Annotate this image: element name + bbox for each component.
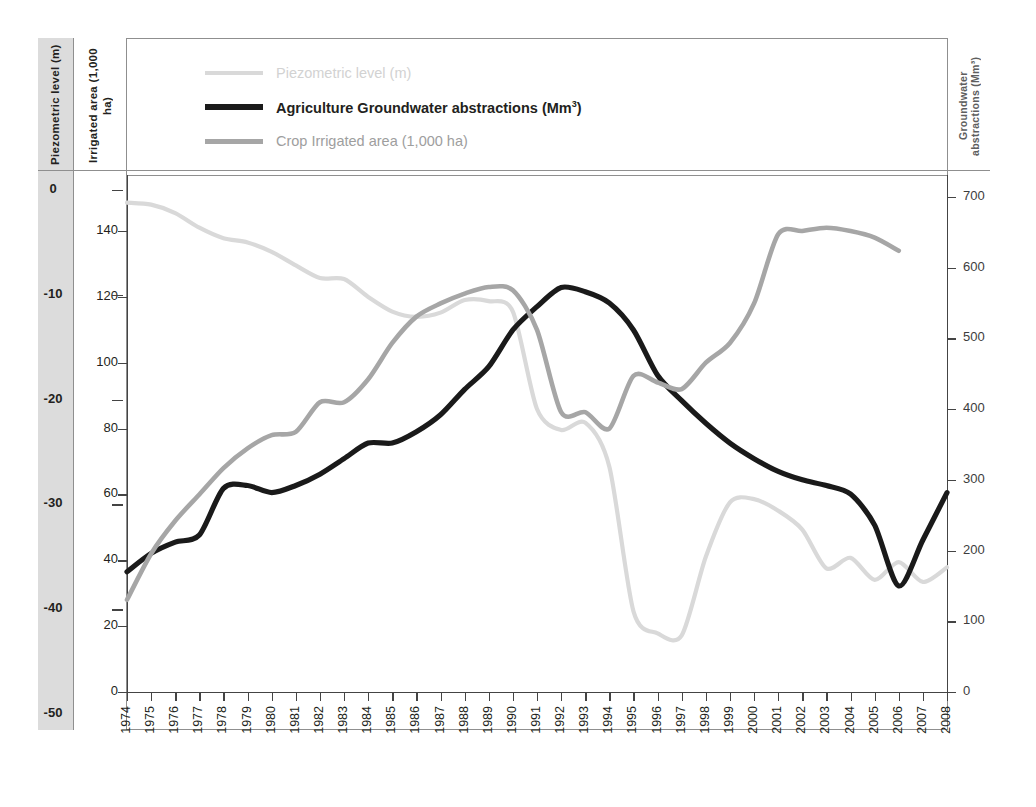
axis-tick-mark [112,609,123,610]
legend-item-piezometric: Piezometric level (m) [205,56,725,90]
x-axis-year-label: 1977 [191,706,205,734]
axis-tick-label: 400 [963,400,1003,415]
legend-item-crop-irrigated: Crop Irrigated area (1,000 ha) [205,124,725,158]
axis-tick-label: 100 [80,354,118,369]
axis-tick-mark [947,268,956,269]
axis-tick-mark [175,692,176,701]
axis-tick-label: 100 [963,612,1003,627]
legend-label-crop-irrigated: Crop Irrigated area (1,000 ha) [276,133,468,149]
axis-tick-mark [585,692,586,701]
axis-tick-mark [851,692,852,701]
x-axis-year-label: 1991 [529,706,543,734]
x-axis-year-label: 1990 [505,706,519,734]
axis-tick-mark [947,409,956,410]
axis-tick-mark [465,692,466,701]
axis-tick-label: 60 [80,485,118,500]
x-axis-year-label: 1997 [674,706,688,734]
axis-tick-mark [682,692,683,701]
x-axis-year-label: 1975 [143,706,157,734]
x-axis-year-label: 1982 [312,706,326,734]
chart-legend: Piezometric level (m) Agriculture Ground… [205,56,725,162]
irrigated-axis-title-text: Irrigated area (1,000 ha) [87,44,114,168]
x-axis-year-label: 1981 [288,706,302,734]
x-axis-year-label: 1994 [601,706,615,734]
x-axis-year-label: 1979 [240,706,254,734]
x-axis-year-label: 1986 [408,706,422,734]
axis-tick-mark [633,692,634,701]
groundwater-axis-title-text: Groundwater abstractions (Mm³) [957,44,982,168]
x-axis-year-label: 2004 [843,706,857,734]
x-axis-year-label: 1998 [698,706,712,734]
axis-tick-mark [151,692,152,701]
axis-tick-mark [706,692,707,701]
axis-tick-mark [875,692,876,701]
axis-tick-mark [112,190,123,191]
irrigated-axis-title: Irrigated area (1,000 ha) [78,44,124,168]
axis-tick-mark [947,480,956,481]
axis-tick-mark [127,692,128,701]
axis-tick-mark [561,692,562,701]
x-axis-year-label: 2003 [818,706,832,734]
axis-tick-mark [118,626,127,627]
axis-tick-label: 80 [80,420,118,435]
axis-tick-mark [118,494,127,495]
axis-tick-label: -50 [40,705,66,720]
axis-tick-label: 40 [80,551,118,566]
axis-tick-mark [223,692,224,701]
x-axis-year-label: 1974 [119,706,133,734]
axis-tick-mark [947,197,956,198]
axis-tick-label: 140 [80,222,118,237]
legend-label-groundwater: Agriculture Groundwater abstractions (Mm… [276,99,582,116]
x-axis-year-label: 1980 [264,706,278,734]
axis-tick-mark [112,504,123,505]
axis-tick-mark [947,621,956,622]
axis-tick-mark [537,692,538,701]
axis-tick-label: -30 [40,495,66,510]
x-axis-year-label: 1988 [457,706,471,734]
x-axis-year-label: 1987 [433,706,447,734]
axis-tick-mark [802,692,803,701]
piezometric-axis-title: Piezometric level (m) [40,44,72,166]
axis-tick-label: 0 [80,683,118,698]
axis-tick-mark [441,692,442,701]
plot-area [127,175,947,692]
plot-right-axis [947,175,948,692]
axis-tick-mark [826,692,827,701]
axis-tick-label: -40 [40,600,66,615]
axis-tick-mark [923,692,924,701]
axis-tick-label: 0 [40,181,66,196]
axis-tick-mark [199,692,200,701]
axis-tick-label: 600 [963,259,1003,274]
legend-label-piezometric: Piezometric level (m) [276,65,411,81]
axis-tick-mark [272,692,273,701]
x-axis-year-label: 2005 [867,706,881,734]
legend-swatch-crop-irrigated [205,139,263,144]
axis-tick-mark [947,692,948,701]
axis-tick-mark [513,692,514,701]
axis-tick-mark [368,692,369,701]
groundwater-axis-title: Groundwater abstractions (Mm³) [950,44,988,168]
x-axis-year-label: 2008 [939,706,953,734]
axis-tick-mark [416,692,417,701]
axis-tick-mark [344,692,345,701]
x-axis-year-label: 2002 [794,706,808,734]
series-canvas [127,175,947,692]
axis-tick-label: -20 [40,391,66,406]
axis-tick-mark [118,560,127,561]
axis-tick-mark [112,400,123,401]
x-axis-year-label: 1976 [167,706,181,734]
x-axis-year-label: 1992 [553,706,567,734]
x-axis-year-label: 1993 [577,706,591,734]
axis-tick-mark [947,692,956,693]
legend-item-groundwater: Agriculture Groundwater abstractions (Mm… [205,90,725,124]
axis-tick-mark [392,692,393,701]
legend-swatch-piezometric [205,71,263,75]
axis-tick-mark [609,692,610,701]
x-axis-year-label: 2006 [891,706,905,734]
axis-tick-label: 20 [80,617,118,632]
x-axis-year-label: 2001 [770,706,784,734]
axis-tick-mark [947,551,956,552]
x-axis-year-label: 1996 [650,706,664,734]
x-axis-year-label: 1978 [215,706,229,734]
axis-tick-label: 500 [963,329,1003,344]
